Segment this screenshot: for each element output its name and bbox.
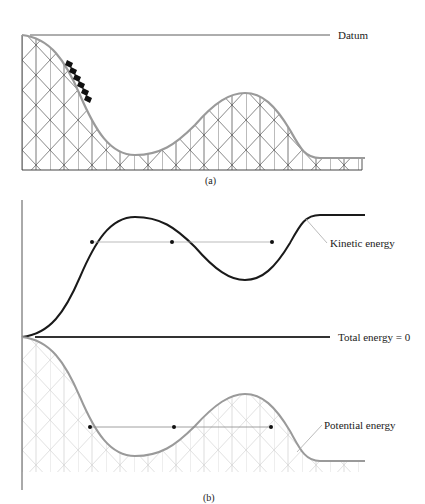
total-energy-label: Total energy = 0 [338, 332, 410, 343]
potential-dot [172, 425, 176, 429]
potential-leader-line [297, 425, 322, 452]
trestle-structure [22, 30, 367, 172]
faded-trestle-structure [22, 330, 367, 475]
potential-dot [269, 425, 273, 429]
panel-b-energy-plot [22, 200, 367, 490]
kinetic-energy-curve [22, 215, 365, 337]
kinetic-dot [170, 240, 174, 244]
kinetic-energy-label: Kinetic energy [330, 238, 395, 249]
kinetic-dot [270, 240, 274, 244]
datum-label: Datum [338, 30, 368, 41]
kinetic-leader-line [305, 218, 327, 243]
panel-a-roller-coaster [22, 30, 367, 172]
potential-energy-label: Potential energy [324, 420, 396, 431]
panel-a-caption: (a) [205, 176, 216, 186]
kinetic-dot [90, 240, 94, 244]
panel-b-caption: (b) [203, 493, 215, 503]
potential-dot [88, 425, 92, 429]
